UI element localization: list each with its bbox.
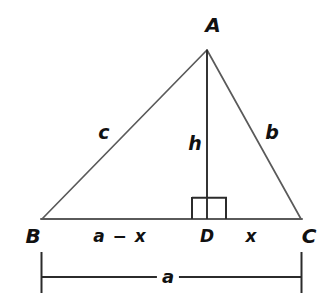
segment-label-x: x	[246, 228, 257, 245]
geometry-figure: A B C D c b h a − x x a	[0, 0, 332, 302]
vertex-label-b: B	[25, 226, 40, 246]
vertex-label-c: C	[302, 226, 317, 246]
side-b-line	[207, 50, 301, 219]
dimension-label-a: a	[157, 268, 179, 286]
altitude-label-h: h	[188, 134, 202, 153]
side-label-b: b	[265, 123, 279, 142]
side-c-line	[42, 50, 207, 219]
right-angle-marker-icon	[192, 197, 227, 219]
vertex-label-a: A	[205, 15, 220, 35]
segment-label-a-minus-x: a − x	[93, 228, 147, 245]
vertex-label-d: D	[200, 228, 214, 245]
diagram-canvas	[0, 0, 332, 302]
side-label-c: c	[98, 123, 109, 142]
